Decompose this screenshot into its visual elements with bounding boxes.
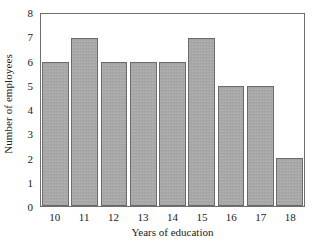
- y-axis-title: Number of employees: [0, 0, 16, 207]
- x-tick-label: 14: [158, 209, 187, 225]
- bar: [101, 62, 128, 206]
- bar: [130, 62, 157, 206]
- bar: [159, 62, 186, 206]
- x-tick-label: 11: [69, 209, 98, 225]
- x-tick-label: 15: [187, 209, 216, 225]
- plot-area: [40, 13, 305, 207]
- bar-cell: [187, 14, 216, 206]
- x-axis-tick-labels: 101112131415161718: [40, 209, 305, 225]
- y-tick-label: 5: [28, 80, 34, 91]
- x-tick-label: 10: [40, 209, 69, 225]
- y-axis-title-text: Number of employees: [2, 54, 14, 154]
- x-tick-label: 17: [246, 209, 275, 225]
- bar-cell: [246, 14, 275, 206]
- bar: [276, 158, 303, 206]
- x-tick-label: 18: [276, 209, 305, 225]
- bar-series: [41, 14, 304, 206]
- bar: [188, 38, 215, 206]
- bar: [218, 86, 245, 206]
- bar-cell: [129, 14, 158, 206]
- x-tick-label: 13: [128, 209, 157, 225]
- x-axis-title: Years of education: [40, 226, 305, 238]
- y-tick-label: 8: [28, 8, 34, 19]
- bar-cell: [275, 14, 304, 206]
- bar: [42, 62, 69, 206]
- bar: [247, 86, 274, 206]
- bar-cell: [41, 14, 70, 206]
- y-tick-label: 3: [28, 129, 34, 140]
- bar-cell: [99, 14, 128, 206]
- y-axis-tick-labels: 012345678: [18, 13, 36, 207]
- y-tick-label: 0: [28, 202, 34, 213]
- y-tick-label: 1: [28, 177, 34, 188]
- histogram-figure: Number of employees 012345678 1011121314…: [0, 0, 322, 246]
- x-tick-label: 12: [99, 209, 128, 225]
- y-tick-label: 7: [28, 32, 34, 43]
- y-tick-label: 2: [28, 153, 34, 164]
- y-tick-label: 4: [28, 105, 34, 116]
- bar-cell: [158, 14, 187, 206]
- bar: [71, 38, 98, 206]
- bar-cell: [70, 14, 99, 206]
- bar-cell: [216, 14, 245, 206]
- y-tick-label: 6: [28, 56, 34, 67]
- x-tick-label: 16: [217, 209, 246, 225]
